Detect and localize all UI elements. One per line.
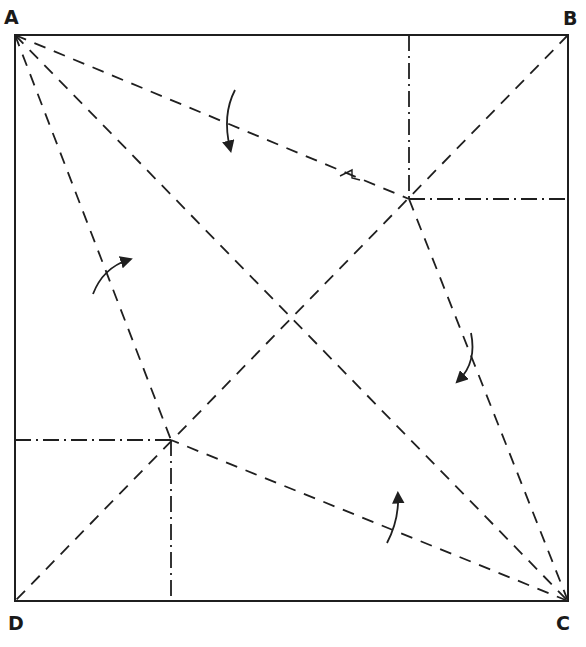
corner-label-d: D [8,614,24,633]
valley-fold-a-f [15,35,171,440]
crease-diagram [0,0,586,647]
arrow-left-icon [93,260,128,294]
valley-fold-a-e [15,35,409,199]
corner-label-b: B [563,9,577,28]
valley-fold-c-f [171,440,568,601]
arrow-top-icon [227,90,235,148]
corner-label-c: C [556,614,570,633]
valley-fold-c-e [409,199,568,601]
corner-label-a: A [4,8,19,27]
arrow-bottom-icon [387,496,398,543]
